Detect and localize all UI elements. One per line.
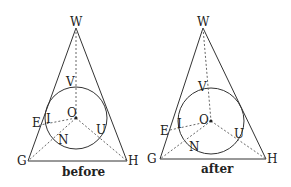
figure-after: W V O E I N U G H after	[147, 15, 277, 176]
triangle-wgh	[28, 28, 127, 161]
label-u: U	[96, 123, 106, 137]
label-g: G	[147, 152, 157, 166]
label-w: W	[197, 15, 210, 29]
label-o: O	[199, 113, 209, 127]
label-n: N	[189, 140, 200, 154]
center-point	[210, 120, 213, 123]
label-w: W	[70, 15, 83, 29]
label-i: I	[46, 112, 51, 126]
label-o: O	[67, 106, 77, 120]
label-g: G	[17, 154, 27, 168]
label-n: N	[58, 133, 69, 147]
triangle-wgh	[160, 28, 266, 159]
label-e: E	[32, 116, 41, 130]
label-v: V	[197, 80, 207, 94]
label-u: U	[234, 127, 244, 141]
label-h: H	[267, 152, 277, 166]
label-i: I	[177, 117, 182, 131]
label-h: H	[128, 154, 138, 168]
caption-after: after	[201, 162, 234, 176]
figure-before: W V O E I N U G H before	[17, 15, 138, 179]
label-e: E	[160, 124, 169, 138]
label-v: V	[65, 75, 75, 89]
caption-before: before	[62, 165, 106, 179]
diagram-canvas: W V O E I N U G H before W V O E I N U G…	[0, 0, 291, 187]
